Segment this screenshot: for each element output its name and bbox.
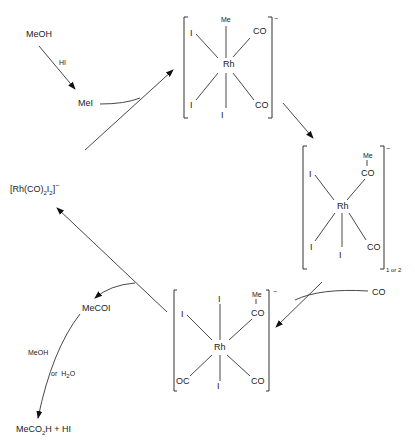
ligand-acyl-me: Me	[363, 152, 373, 159]
ligand-co-ur: CO	[253, 26, 267, 36]
ligand-co-lr: CO	[251, 376, 265, 386]
rh-center: Rh	[223, 59, 235, 69]
acyl-iodide-release-curve	[95, 283, 135, 298]
co-addition-curve	[295, 290, 368, 300]
rh-center: Rh	[214, 342, 226, 352]
charge-label: −	[386, 145, 390, 152]
acyl-iodide-label: MeCOI	[82, 303, 111, 313]
complex-top-methyl: − Rh Me I CO I I CO	[184, 15, 278, 120]
ligand-i-ll: I	[190, 100, 193, 110]
ligand-i-bottom: I	[217, 381, 220, 391]
complex-bottom-acyl-co: − Rh I Me CO I OC I CO	[174, 288, 277, 391]
catalyst-label: [Rh(CO)2I2]−	[10, 182, 59, 196]
migratory-insertion-arrow	[283, 103, 313, 138]
bracket-right	[380, 146, 384, 269]
ligand-i-ll: I	[310, 242, 313, 252]
hydrolysis-reagent-meoh: MeOH	[28, 349, 48, 356]
ligand-i-ul: I	[309, 169, 312, 179]
charge-label: −	[274, 15, 278, 22]
mei-addition-curve	[100, 98, 140, 104]
oxidative-addition-arrow	[85, 70, 173, 150]
reductive-elimination-arrow	[57, 208, 167, 312]
hi-reagent-label: HI	[59, 59, 66, 66]
ligand-i-ul: I	[181, 309, 184, 319]
rh-center: Rh	[337, 201, 349, 211]
hydrolysis-reagent-water: orH2O	[51, 370, 76, 379]
bracket-right	[266, 290, 269, 391]
complex-right-acyl: − 1 or 2 Rh Me CO I I I CO	[303, 145, 402, 273]
ligand-i-bottom: I	[339, 250, 342, 260]
co-reagent-label: CO	[372, 287, 386, 297]
hydrolysis-arrow	[38, 314, 80, 418]
ligand-acyl-me: Me	[252, 291, 262, 298]
ligand-i-bottom: I	[221, 110, 224, 120]
mei-label: MeI	[78, 98, 93, 108]
ligand-i-top: I	[218, 294, 221, 304]
meoh-label: MeOH	[26, 29, 52, 39]
bracket-left	[303, 146, 307, 269]
meoh-to-mei-arrow	[39, 46, 75, 89]
ligand-i-ul: I	[190, 28, 193, 38]
ligand-acyl-co: CO	[251, 308, 265, 318]
bracket-right	[268, 17, 272, 118]
bracket-left	[184, 17, 188, 118]
svg-text:[Rh(CO)2I2]−: [Rh(CO)2I2]−	[10, 182, 59, 196]
charge-label: −	[273, 288, 277, 295]
catalytic-cycle-diagram: MeOH HI MeI [Rh(CO)2I2]− − Rh Me I CO I …	[0, 0, 415, 441]
ligand-oc-ll: OC	[176, 376, 190, 386]
ligand-me: Me	[221, 16, 231, 23]
ligand-co-lr: CO	[367, 242, 381, 252]
final-products-label: MeCO2H + HI	[16, 424, 71, 436]
ligand-acyl-co: CO	[361, 168, 375, 178]
co-addition-arrow	[276, 282, 322, 327]
ligand-co-lr: CO	[255, 100, 269, 110]
oligomer-subscript: 1 or 2	[386, 267, 402, 273]
